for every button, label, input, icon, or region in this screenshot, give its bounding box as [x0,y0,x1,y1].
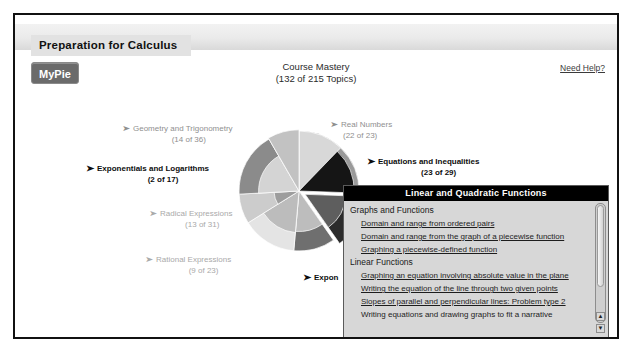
topic-link[interactable]: Domain and range from ordered pairs [349,217,591,230]
pie-label-name: Exponentials and Logarithms [97,164,209,173]
topic-link[interactable]: Graphing an equation involving absolute … [349,269,591,282]
page-title: Preparation for Calculus [31,35,191,56]
pie-label-radical-expressions[interactable]: ➤Radical Expressions (13 of 31) [150,209,232,230]
pie-label-name: Expon [314,273,338,282]
triangle-right-icon: ➤ [86,164,95,175]
topic-link[interactable]: Writing the equation of the line through… [349,282,591,295]
need-help-link[interactable]: Need Help? [560,63,605,73]
popup-title: Linear and Quadratic Functions [344,186,608,201]
pie-label-count: (14 of 36) [123,135,233,146]
pie-label-exponential-functions[interactable]: ➤Expon [304,273,338,284]
triangle-right-icon: ➤ [122,124,131,135]
popup-topic-list: Graphs and FunctionsDomain and range fro… [344,201,595,339]
triangle-right-icon: ➤ [303,273,312,284]
pie-label-name: Equations and Inequalities [378,157,479,166]
pie-label-count: (23 of 29) [368,168,479,179]
pie-label-name: Rational Expressions [156,255,231,264]
pie-label-real-numbers[interactable]: ➤Real Numbers (22 of 23) [331,120,392,141]
pie-label-count: (13 of 31) [150,220,232,231]
triangle-right-icon: ➤ [367,157,376,168]
mastery-count: (132 of 215 Topics) [15,73,617,85]
topic-link[interactable]: Graphing a piecewise-defined function [349,243,591,256]
pie-label-name: Real Numbers [341,120,392,129]
course-mastery-heading: Course Mastery (132 of 215 Topics) [15,61,617,85]
pie-label-count: (9 of 23) [146,266,231,277]
pie-label-name: Geometry and Trigonometry [133,124,233,133]
triangle-right-icon: ➤ [330,120,339,131]
scroll-down-button[interactable]: ▼ [596,324,605,333]
mastery-title: Course Mastery [15,61,617,73]
application-frame: Preparation for Calculus MyPie Course Ma… [13,13,619,339]
triangle-right-icon: ➤ [145,255,154,266]
topic-section-heading: Graphs and Functions [349,204,591,217]
scrollbar-thumb[interactable] [597,205,604,287]
topic-item: Writing equations and drawing graphs to … [349,308,591,321]
pie-label-geometry-and-trigonometry[interactable]: ➤Geometry and Trigonometry (14 of 36) [123,124,233,145]
topic-link[interactable]: Slopes of parallel and perpendicular lin… [349,295,591,308]
pie-label-name: Radical Expressions [160,209,232,218]
pie-label-exponentials-and-logarithms[interactable]: ➤Exponentials and Logarithms (2 of 17) [87,164,209,185]
pie-label-rational-expressions[interactable]: ➤Rational Expressions (9 of 23) [146,255,231,276]
pie-label-count: (2 of 17) [87,175,209,186]
triangle-right-icon: ➤ [149,209,158,220]
popup-scrollbar[interactable] [595,203,606,323]
scroll-up-button[interactable]: ▲ [596,312,605,321]
pie-label-equations-and-inequalities[interactable]: ➤Equations and Inequalities (23 of 29) [368,157,479,178]
pie-label-count: (22 of 23) [331,131,392,142]
topic-link[interactable]: Domain and range from the graph of a pie… [349,230,591,243]
topic-list-popup[interactable]: Linear and Quadratic Functions Graphs an… [343,185,609,339]
topic-section-heading: Linear Functions [349,256,591,269]
header-band: Preparation for Calculus [15,24,617,50]
